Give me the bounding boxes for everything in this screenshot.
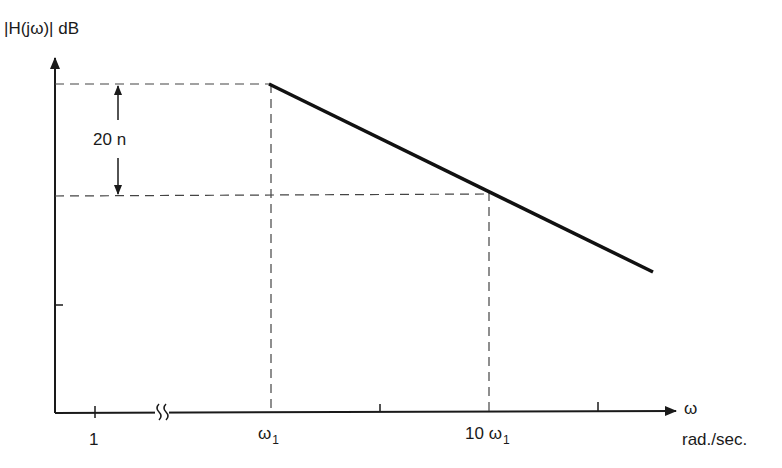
x-ticks xyxy=(95,402,598,418)
tick-label-10w1: 10 ω1 xyxy=(465,425,510,442)
x-axis-label: ω xyxy=(684,400,697,417)
tick-label-w1: ω1 xyxy=(258,425,279,442)
y-axis-label: |H(jω)| dB xyxy=(4,20,79,37)
magnitude-asymptote xyxy=(269,84,653,272)
dimension-label: 20 n xyxy=(93,131,126,148)
x-axis-unit: rad./sec. xyxy=(682,431,747,448)
x-axis xyxy=(55,411,676,413)
tick-label-1: 1 xyxy=(89,431,98,448)
bode-plot xyxy=(0,0,782,468)
